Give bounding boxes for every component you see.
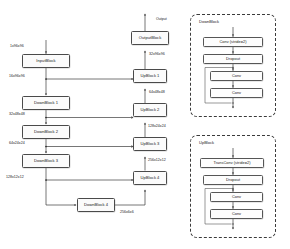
upblock-layer-transconv-stride2[interactable]: TransConv (stride=2) <box>200 158 264 168</box>
block-label: UpBlock 1 <box>141 74 160 78</box>
downblock-layer-conv-b[interactable]: Conv <box>210 88 263 98</box>
layer-label: Conv <box>232 91 241 95</box>
shape-input: 1x96x96 <box>10 45 24 49</box>
layer-label: Conv <box>232 195 241 199</box>
downblock-layer-dropout[interactable]: Dropout <box>203 54 263 64</box>
block-up-block-3[interactable]: UpBlock 3 <box>133 137 167 151</box>
block-label: OutputBlock <box>139 36 162 40</box>
shape-after-up4: 256x12x12 <box>148 159 166 163</box>
shape-after-input: 16x96x96 <box>9 75 25 79</box>
upblock-panel-title: UpBlock <box>199 141 214 145</box>
downblock-layer-conv-stride2[interactable]: Conv (stride=2) <box>203 37 263 47</box>
shape-after-down2: 64x24x24 <box>9 142 25 146</box>
diagram-canvas: InputBlock DownBlock 1 DownBlock 2 DownB… <box>0 0 290 249</box>
layer-label: Conv (stride=2) <box>219 40 246 44</box>
block-label: DownBlock 4 <box>84 203 108 207</box>
shape-after-up3: 128x24x24 <box>148 125 166 129</box>
block-down-block-4[interactable]: DownBlock 4 <box>77 198 115 212</box>
downblock-layer-conv-a[interactable]: Conv <box>210 71 263 81</box>
block-label: DownBlock 1 <box>34 101 58 105</box>
upblock-layer-conv-b[interactable]: Conv <box>210 209 263 219</box>
block-label: UpBlock 2 <box>141 108 160 112</box>
block-label: DownBlock 3 <box>34 159 58 163</box>
shape-after-down4: 256x6x6 <box>120 211 134 215</box>
layer-label: Dropout <box>226 178 240 182</box>
block-up-block-2[interactable]: UpBlock 2 <box>133 103 167 117</box>
block-up-block-4[interactable]: UpBlock 4 <box>133 171 167 185</box>
layer-label: Conv <box>232 212 241 216</box>
upblock-layer-conv-a[interactable]: Conv <box>210 192 263 202</box>
block-label: DownBlock 2 <box>34 130 58 134</box>
block-input-block[interactable]: InputBlock <box>22 54 70 68</box>
upblock-layer-dropout[interactable]: Dropout <box>203 175 263 185</box>
shape-after-up2: 64x48x48 <box>149 91 165 95</box>
block-label: UpBlock 3 <box>141 142 160 146</box>
block-up-block-1[interactable]: UpBlock 1 <box>133 69 167 83</box>
block-down-block-2[interactable]: DownBlock 2 <box>22 125 70 139</box>
shape-after-up1: 32x96x96 <box>149 53 165 57</box>
downblock-detail-panel <box>190 14 276 117</box>
layer-label: TransConv (stride=2) <box>214 161 251 165</box>
shape-after-down1: 32x48x48 <box>9 113 25 117</box>
block-label: UpBlock 4 <box>141 176 160 180</box>
block-label: InputBlock <box>36 59 55 63</box>
downblock-panel-title: DownBlock <box>199 20 219 24</box>
layer-label: Conv <box>232 74 241 78</box>
block-down-block-3[interactable]: DownBlock 3 <box>22 154 70 168</box>
output-label: Output <box>156 18 167 22</box>
block-down-block-1[interactable]: DownBlock 1 <box>22 96 70 110</box>
layer-label: Dropout <box>226 57 240 61</box>
shape-after-down3: 128x12x12 <box>6 176 24 180</box>
block-output-block[interactable]: OutputBlock <box>131 31 169 45</box>
upblock-detail-panel <box>190 135 276 238</box>
